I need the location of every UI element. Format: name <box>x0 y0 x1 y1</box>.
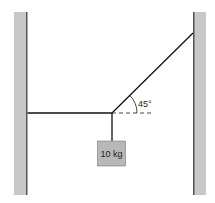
mass-block: 10 kg <box>98 141 126 166</box>
angled-rope <box>112 33 193 113</box>
angle-label: 45° <box>138 99 152 109</box>
angle-arc <box>130 95 137 113</box>
right-wall <box>193 12 206 195</box>
mass-label: 10 kg <box>100 149 122 159</box>
left-wall <box>14 12 28 195</box>
tension-diagram: 45° 10 kg <box>0 0 215 203</box>
